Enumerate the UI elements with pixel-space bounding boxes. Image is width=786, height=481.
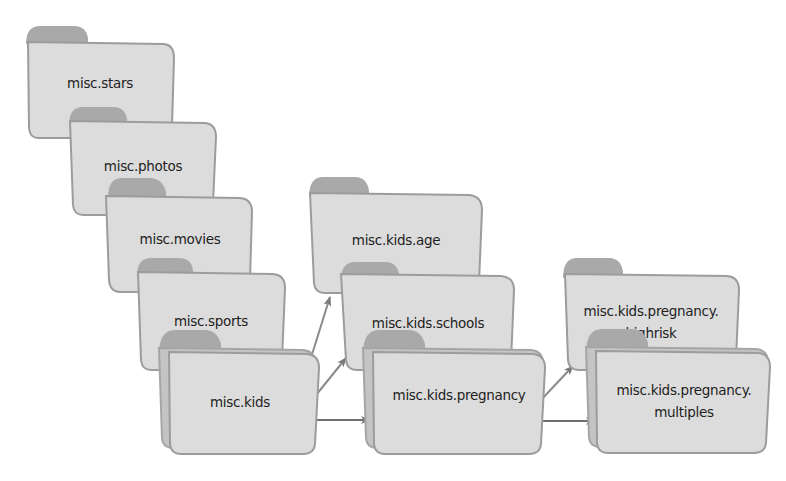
folder-misc-kids-pregnancy[interactable]: misc.kids.pregnancy [361,328,549,458]
folder-label-line-2: multiples [594,401,774,423]
folder-label: misc.movies [104,228,256,250]
folder-misc-kids-pregnancy-multiples[interactable]: misc.kids.pregnancy. multiples [584,327,774,457]
folder-label-line-1: misc.kids.pregnancy. [561,300,741,322]
diagram-canvas: misc.stars misc.photos misc.movies misc.… [0,0,786,481]
folder-label-line-1: misc.kids.pregnancy. [594,379,774,401]
folder-label: misc.kids.age [307,229,485,251]
folder-label: misc.kids.pregnancy [369,384,549,406]
folder-label: misc.photos [67,155,219,177]
folder-label: misc.kids [157,391,323,413]
folder-label: misc.stars [24,72,176,94]
folder-misc-kids[interactable]: misc.kids [157,328,323,458]
